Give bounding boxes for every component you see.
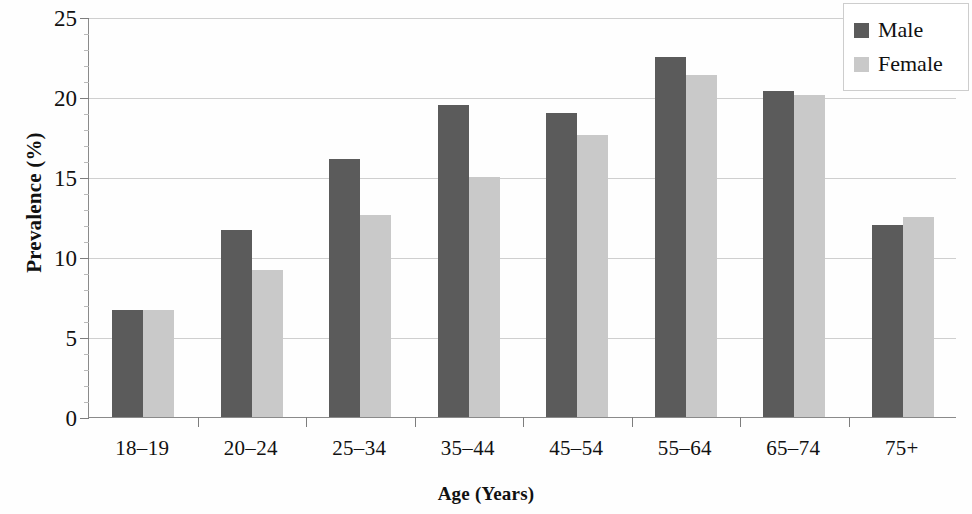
y-tick-minor	[84, 146, 89, 147]
y-tick-minor	[84, 194, 89, 195]
bar-chart: Prevalence (%) 0510152025 18–1920–2425–3…	[0, 0, 972, 514]
bar-male-25-34	[329, 159, 360, 417]
y-tick-mark	[80, 18, 89, 19]
bar-male-18-19	[112, 310, 143, 417]
y-tick-mark	[80, 338, 89, 339]
gridline	[89, 258, 956, 259]
bar-male-65-74	[763, 91, 794, 417]
bar-male-35-44	[438, 105, 469, 417]
y-tick-label: 20	[17, 87, 77, 110]
legend: Male Female	[843, 3, 969, 91]
plot-area: 0510152025	[88, 18, 956, 418]
y-tick-minor	[84, 50, 89, 51]
bar-male-55-64	[655, 57, 686, 417]
gridline	[89, 18, 956, 19]
y-tick-minor	[84, 114, 89, 115]
y-tick-minor	[84, 290, 89, 291]
y-tick-minor	[84, 34, 89, 35]
x-tick-mark	[632, 417, 633, 427]
y-tick-label: 10	[17, 247, 77, 270]
y-tick-minor	[84, 306, 89, 307]
bar-female-25-34	[360, 215, 391, 417]
y-tick-minor	[84, 322, 89, 323]
y-tick-minor	[84, 274, 89, 275]
bar-female-18-19	[143, 310, 174, 417]
y-tick-mark	[80, 178, 89, 179]
bar-female-35-44	[469, 177, 500, 417]
y-tick-label: 15	[17, 167, 77, 190]
legend-item-male[interactable]: Male	[854, 13, 960, 47]
bar-female-55-64	[686, 75, 717, 417]
bar-male-75+	[872, 225, 903, 417]
gridline	[89, 338, 956, 339]
bar-female-45-54	[577, 135, 608, 417]
legend-label-female: Female	[878, 53, 943, 75]
y-tick-mark	[80, 258, 89, 259]
y-tick-minor	[84, 210, 89, 211]
y-tick-minor	[84, 370, 89, 371]
x-tick-mark	[306, 417, 307, 427]
y-tick-label: 5	[17, 327, 77, 350]
x-tick-mark	[523, 417, 524, 427]
y-tick-minor	[84, 402, 89, 403]
x-tick-mark	[849, 417, 850, 427]
y-tick-minor	[84, 226, 89, 227]
y-tick-mark	[80, 98, 89, 99]
y-tick-minor	[84, 386, 89, 387]
bar-female-65-74	[794, 95, 825, 417]
x-tick-mark	[740, 417, 741, 427]
legend-item-female[interactable]: Female	[854, 47, 960, 81]
y-tick-label: 25	[17, 7, 77, 30]
y-tick-minor	[84, 354, 89, 355]
x-tick-mark	[198, 417, 199, 427]
bar-male-20-24	[221, 230, 252, 417]
legend-swatch-male-icon	[854, 23, 869, 38]
y-tick-minor	[84, 66, 89, 67]
x-axis-title: Age (Years)	[0, 483, 972, 505]
legend-swatch-female-icon	[854, 57, 869, 72]
x-tick-label-75+: 75+	[837, 436, 967, 461]
y-tick-minor	[84, 242, 89, 243]
gridline	[89, 178, 956, 179]
bar-female-20-24	[252, 270, 283, 417]
gridline	[89, 98, 956, 99]
bar-female-75+	[903, 217, 934, 417]
y-tick-minor	[84, 82, 89, 83]
y-tick-minor	[84, 162, 89, 163]
y-tick-minor	[84, 130, 89, 131]
bar-male-45-54	[546, 113, 577, 417]
x-tick-mark	[415, 417, 416, 427]
y-axis-title: Prevalence (%)	[22, 73, 47, 333]
y-tick-label: 0	[17, 407, 77, 430]
legend-label-male: Male	[878, 19, 923, 41]
y-tick-mark	[80, 418, 89, 419]
